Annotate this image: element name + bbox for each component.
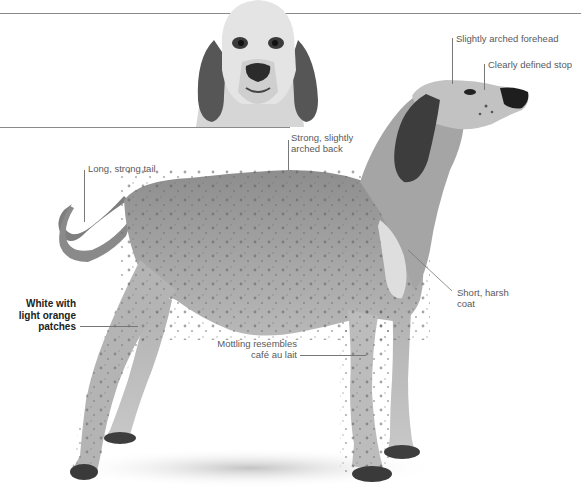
stop-leader bbox=[484, 64, 485, 90]
label-back-line1: Strong, slightly bbox=[291, 132, 353, 143]
label-coat-color-line3: patches bbox=[10, 321, 76, 333]
label-mottling-line1: Mottling resembles bbox=[205, 338, 297, 349]
label-back: Strong, slightly arched back bbox=[291, 132, 353, 154]
label-coat-texture-line1: Short, harsh bbox=[457, 287, 509, 298]
tail-leader bbox=[84, 170, 85, 222]
label-mottling-line2: café au lait bbox=[205, 349, 297, 360]
label-mottling: Mottling resembles café au lait bbox=[205, 338, 297, 360]
mottling-leader bbox=[300, 355, 366, 356]
label-forehead: Slightly arched forehead bbox=[456, 33, 558, 44]
label-coat-color: White with light orange patches bbox=[10, 298, 76, 333]
breed-profile-page: Slightly arched forehead Clearly defined… bbox=[0, 0, 581, 491]
label-coat-color-line1: White with bbox=[10, 298, 76, 310]
dog-illustration bbox=[0, 0, 581, 491]
label-coat-texture: Short, harsh coat bbox=[457, 287, 509, 309]
coat-color-leader bbox=[80, 326, 138, 327]
label-back-line2: arched back bbox=[291, 143, 353, 154]
inset-head-photo bbox=[196, 0, 318, 127]
label-coat-texture-line2: coat bbox=[457, 298, 509, 309]
label-tail: Long, strong tail bbox=[88, 163, 156, 174]
back-leader bbox=[288, 140, 289, 170]
label-stop: Clearly defined stop bbox=[488, 59, 572, 70]
label-coat-color-line2: light orange bbox=[10, 310, 76, 322]
forehead-leader bbox=[452, 38, 453, 84]
